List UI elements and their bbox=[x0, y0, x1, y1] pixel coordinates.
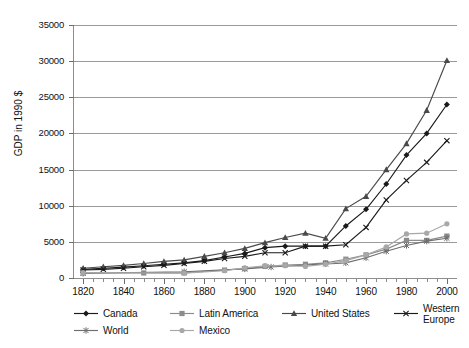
gridline bbox=[73, 206, 457, 207]
data-point-square bbox=[179, 311, 184, 316]
legend-marker-triangle-icon bbox=[281, 308, 307, 319]
x-minor-tick-mark bbox=[225, 279, 226, 282]
x-minor-tick-mark bbox=[144, 279, 145, 282]
y-tick-mark bbox=[69, 170, 74, 171]
chart-figure: GDP in 1990 $ 05000100001500020000250003… bbox=[0, 0, 469, 348]
x-tick-label: 1900 bbox=[222, 286, 268, 297]
x-minor-tick-mark bbox=[386, 279, 387, 282]
x-tick-label: 1820 bbox=[60, 286, 106, 297]
legend-label: Mexico bbox=[199, 325, 230, 336]
x-minor-tick-mark bbox=[255, 279, 256, 282]
x-minor-tick-mark bbox=[154, 279, 155, 282]
gridline bbox=[73, 133, 457, 134]
x-minor-tick-mark bbox=[427, 279, 428, 282]
x-minor-tick-mark bbox=[356, 279, 357, 282]
x-tick-mark bbox=[83, 279, 84, 284]
x-tick-label: 1940 bbox=[303, 286, 349, 297]
x-tick-label: 2000 bbox=[424, 286, 469, 297]
x-minor-tick-mark bbox=[113, 279, 114, 282]
data-point-circle bbox=[179, 328, 184, 333]
legend-label: World bbox=[103, 325, 128, 336]
y-axis-title: GDP in 1990 $ bbox=[13, 69, 24, 179]
gridline bbox=[73, 61, 457, 62]
legend-marker-asterisk-icon bbox=[73, 325, 99, 336]
y-tick-label: 5000 bbox=[4, 236, 64, 247]
x-minor-tick-mark bbox=[214, 279, 215, 282]
y-tick-mark bbox=[69, 61, 74, 62]
y-tick-label: 25000 bbox=[4, 91, 64, 102]
y-tick-mark bbox=[69, 206, 74, 207]
y-tick-mark bbox=[69, 97, 74, 98]
legend-label: Latin America bbox=[199, 308, 258, 319]
y-tick-mark bbox=[69, 25, 74, 26]
y-tick-label: 30000 bbox=[4, 55, 64, 66]
gridline bbox=[73, 25, 457, 26]
x-tick-mark bbox=[164, 279, 165, 284]
x-minor-tick-mark bbox=[134, 279, 135, 282]
x-minor-tick-mark bbox=[275, 279, 276, 282]
x-tick-mark bbox=[245, 279, 246, 284]
legend-marker-x-icon bbox=[393, 308, 419, 319]
x-minor-tick-mark bbox=[376, 279, 377, 282]
x-minor-tick-mark bbox=[346, 279, 347, 282]
x-minor-tick-mark bbox=[396, 279, 397, 282]
y-tick-label: 35000 bbox=[4, 19, 64, 30]
x-minor-tick-mark bbox=[265, 279, 266, 282]
x-minor-tick-mark bbox=[93, 279, 94, 282]
legend-item-united-states[interactable]: United States bbox=[281, 305, 393, 322]
legend-item-mexico[interactable]: Mexico bbox=[169, 322, 281, 339]
legend-marker-diamond-icon bbox=[73, 308, 99, 319]
x-tick-mark bbox=[285, 279, 286, 284]
x-tick-mark bbox=[124, 279, 125, 284]
data-point-diamond bbox=[83, 311, 89, 317]
chart-legend: CanadaLatin AmericaUnited StatesWestern … bbox=[73, 305, 463, 339]
legend-item-latin-america[interactable]: Latin America bbox=[169, 305, 281, 322]
y-tick-label: 20000 bbox=[4, 127, 64, 138]
x-tick-mark bbox=[366, 279, 367, 284]
x-minor-tick-mark bbox=[174, 279, 175, 282]
x-tick-label: 1880 bbox=[181, 286, 227, 297]
x-minor-tick-mark bbox=[194, 279, 195, 282]
y-tick-mark bbox=[69, 242, 74, 243]
x-minor-tick-mark bbox=[184, 279, 185, 282]
legend-item-canada[interactable]: Canada bbox=[73, 305, 169, 322]
x-minor-tick-mark bbox=[305, 279, 306, 282]
y-tick-mark bbox=[69, 133, 74, 134]
legend-label: Canada bbox=[103, 308, 137, 319]
x-minor-tick-mark bbox=[417, 279, 418, 282]
legend-marker-circle-icon bbox=[169, 325, 195, 336]
x-minor-tick-mark bbox=[316, 279, 317, 282]
y-tick-label: 15000 bbox=[4, 164, 64, 175]
x-tick-label: 1980 bbox=[383, 286, 429, 297]
legend-label: Western Europe bbox=[423, 303, 459, 325]
gridline bbox=[73, 170, 457, 171]
x-tick-label: 1920 bbox=[262, 286, 308, 297]
gridline bbox=[73, 97, 457, 98]
x-minor-tick-mark bbox=[103, 279, 104, 282]
x-tick-label: 1860 bbox=[141, 286, 187, 297]
x-tick-mark bbox=[326, 279, 327, 284]
x-tick-mark bbox=[447, 279, 448, 284]
x-tick-label: 1960 bbox=[343, 286, 389, 297]
x-tick-mark bbox=[406, 279, 407, 284]
x-minor-tick-mark bbox=[336, 279, 337, 282]
plot-area bbox=[73, 25, 457, 278]
x-tick-label: 1840 bbox=[101, 286, 147, 297]
x-minor-tick-mark bbox=[295, 279, 296, 282]
gridline bbox=[73, 242, 457, 243]
x-minor-tick-mark bbox=[437, 279, 438, 282]
legend-marker-square-icon bbox=[169, 308, 195, 319]
legend-label: United States bbox=[311, 308, 370, 319]
legend-item-world[interactable]: World bbox=[73, 322, 169, 339]
x-minor-tick-mark bbox=[235, 279, 236, 282]
y-tick-label: 10000 bbox=[4, 200, 64, 211]
y-tick-mark bbox=[69, 278, 74, 279]
x-tick-mark bbox=[204, 279, 205, 284]
y-tick-label: 0 bbox=[4, 272, 64, 283]
